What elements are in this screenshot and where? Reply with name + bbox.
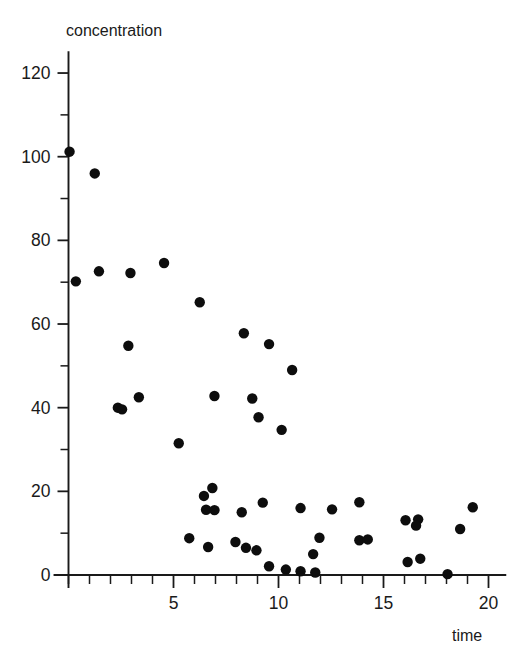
data-point — [314, 533, 324, 543]
data-point — [209, 391, 219, 401]
x-axis-title: time — [452, 627, 482, 644]
data-point — [415, 553, 425, 563]
x-tick-label: 15 — [374, 593, 393, 613]
data-point — [281, 564, 291, 574]
plot-canvas: 0204060801001205101520 concentration tim… — [0, 0, 516, 663]
data-point — [195, 297, 205, 307]
data-point — [237, 507, 247, 517]
data-point — [90, 168, 100, 178]
data-point — [64, 146, 74, 156]
data-point — [247, 393, 257, 403]
data-point — [400, 515, 410, 525]
data-point — [123, 341, 133, 351]
data-point — [239, 328, 249, 338]
data-point — [363, 534, 373, 544]
data-point — [310, 567, 320, 577]
y-tick-label: 60 — [31, 314, 51, 334]
data-point — [264, 561, 274, 571]
y-tick-label: 80 — [31, 230, 51, 250]
data-point — [159, 258, 169, 268]
y-tick-label: 100 — [21, 147, 50, 167]
data-point — [442, 569, 452, 579]
data-point — [125, 268, 135, 278]
data-point — [327, 504, 337, 514]
y-tick-label: 120 — [21, 63, 50, 83]
data-point — [71, 276, 81, 286]
y-tick-label: 40 — [31, 398, 51, 418]
data-point — [295, 566, 305, 576]
data-point — [203, 542, 213, 552]
data-point — [251, 545, 261, 555]
data-point — [94, 266, 104, 276]
data-point — [468, 502, 478, 512]
data-point — [411, 520, 421, 530]
data-point — [209, 505, 219, 515]
data-point — [308, 549, 318, 559]
data-point — [230, 537, 240, 547]
scatter-plot-figure: 0204060801001205101520 concentration tim… — [0, 0, 516, 663]
data-points-group — [64, 146, 478, 579]
data-point — [354, 497, 364, 507]
data-point — [199, 491, 209, 501]
data-point — [276, 425, 286, 435]
data-point — [402, 557, 412, 567]
x-tick-label: 5 — [169, 593, 179, 613]
data-point — [174, 438, 184, 448]
data-point — [207, 483, 217, 493]
data-point — [295, 503, 305, 513]
y-tick-label: 0 — [41, 565, 51, 585]
data-point — [117, 404, 127, 414]
y-axis-title: concentration — [66, 22, 162, 39]
tick-labels-group: 0204060801001205101520 — [21, 63, 498, 613]
data-point — [258, 497, 268, 507]
data-point — [264, 339, 274, 349]
x-tick-label: 20 — [479, 593, 499, 613]
data-point — [184, 533, 194, 543]
ticks-group — [58, 73, 489, 588]
data-point — [134, 392, 144, 402]
y-tick-label: 20 — [31, 481, 51, 501]
data-point — [287, 365, 297, 375]
data-point — [455, 524, 465, 534]
data-point — [253, 412, 263, 422]
x-tick-label: 10 — [269, 593, 289, 613]
data-point — [241, 543, 251, 553]
axes-group — [55, 52, 506, 587]
